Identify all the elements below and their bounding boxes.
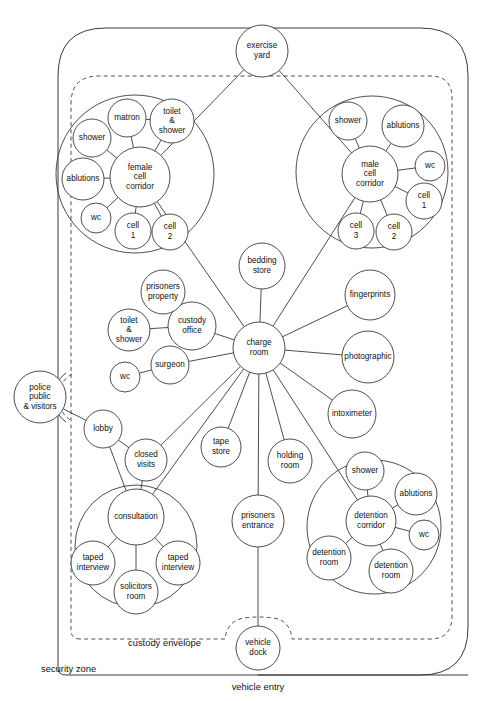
node-toilet-shower[interactable]: toilet&shower bbox=[108, 309, 150, 351]
male-ablutions-label: ablutions bbox=[387, 121, 420, 130]
detention-shower-label: shower bbox=[352, 466, 379, 475]
node-female-cell-corridor[interactable]: femalecellcorridor bbox=[110, 147, 170, 207]
male-cell-corridor-label: cell bbox=[364, 169, 376, 178]
link-charge-room-to-custody-office bbox=[215, 333, 235, 339]
link-consultation-to-taped-interview-2 bbox=[155, 538, 163, 547]
female-cell-2-label: 2 bbox=[168, 232, 173, 241]
custody-office-label: office bbox=[182, 326, 202, 335]
zone-label-vehicle-entry: vehicle entry bbox=[232, 681, 285, 692]
link-charge-room-to-prisoners-entrance bbox=[258, 374, 259, 495]
exercise-yard-label: exercise bbox=[247, 41, 278, 50]
link-detention-corridor-to-detention-wc bbox=[395, 527, 409, 531]
link-female-cell-corridor-to-female-cell-1 bbox=[135, 207, 136, 213]
link-charge-room-to-intoximeter bbox=[280, 363, 332, 400]
police-public-visitors-label: police bbox=[29, 383, 51, 392]
node-taped-interview-1[interactable]: tapedinterview bbox=[71, 541, 115, 585]
detention-wc-label: wc bbox=[418, 530, 429, 539]
female-cell-2-label: cell bbox=[164, 222, 176, 231]
link-police-public-visitors-to-lobby bbox=[63, 409, 86, 421]
node-male-cell-1[interactable]: cell1 bbox=[406, 183, 442, 219]
female-matron-label: matron bbox=[114, 113, 140, 122]
link-lobby-to-consultation bbox=[110, 447, 127, 491]
link-detention-corridor-to-detention-ablutions bbox=[392, 505, 398, 508]
prisoners-property-label: property bbox=[148, 292, 179, 301]
link-surgeon-to-wc-surgeon bbox=[139, 370, 151, 373]
detention-room-1-label: room bbox=[320, 558, 339, 567]
node-female-cell-1[interactable]: cell1 bbox=[115, 213, 151, 249]
police-public-visitors-label: public bbox=[29, 392, 50, 401]
charge-room-label: charge bbox=[246, 338, 271, 347]
node-exercise-yard[interactable]: exerciseyard bbox=[236, 25, 288, 77]
solicitors-room-label: room bbox=[127, 592, 146, 601]
link-lobby-to-closed-visits bbox=[118, 440, 129, 448]
vehicle-dock-label: vehicle bbox=[245, 638, 271, 647]
node-male-cell-corridor[interactable]: malecellcorridor bbox=[342, 146, 398, 202]
node-male-wc[interactable]: wc bbox=[415, 151, 445, 181]
node-fingerprints[interactable]: fingerprints bbox=[345, 270, 395, 320]
node-detention-room-1[interactable]: detentionroom bbox=[307, 536, 351, 580]
intoximeter-label: intoximeter bbox=[332, 409, 372, 418]
node-female-toilet-shower[interactable]: toilet&shower bbox=[150, 99, 194, 143]
fingerprints-label: fingerprints bbox=[350, 290, 391, 299]
node-detention-room-2[interactable]: detentionroom bbox=[369, 549, 413, 593]
node-photographic[interactable]: photographic bbox=[342, 331, 394, 383]
node-bedding-store[interactable]: beddingstore bbox=[239, 243, 285, 289]
female-cell-corridor-label: cell bbox=[134, 172, 146, 181]
node-female-matron[interactable]: matron bbox=[108, 99, 146, 137]
taped-interview-2-label: taped bbox=[168, 553, 189, 562]
node-wc-surgeon[interactable]: wc bbox=[110, 362, 140, 392]
node-male-cell-2[interactable]: cell2 bbox=[376, 214, 412, 250]
node-holding-room[interactable]: holdingroom bbox=[268, 439, 312, 483]
node-female-ablutions[interactable]: ablutions bbox=[62, 158, 104, 200]
bedding-store-label: bedding bbox=[247, 256, 277, 265]
female-toilet-shower-label: shower bbox=[159, 126, 186, 135]
node-charge-room[interactable]: chargeroom bbox=[233, 322, 285, 374]
male-cell-corridor-label: male bbox=[361, 160, 379, 169]
female-cell-corridor-label: corridor bbox=[126, 182, 154, 191]
female-toilet-shower-label: toilet bbox=[163, 107, 181, 116]
male-cell-2-label: 2 bbox=[392, 232, 397, 241]
link-female-cell-corridor-to-female-cell-2 bbox=[154, 203, 161, 216]
detention-corridor-label: corridor bbox=[357, 521, 385, 530]
node-lobby[interactable]: lobby bbox=[84, 410, 122, 448]
node-male-shower[interactable]: shower bbox=[329, 102, 367, 140]
node-female-wc[interactable]: wc bbox=[81, 203, 111, 233]
node-consultation[interactable]: consultation bbox=[108, 489, 164, 545]
node-detention-corridor[interactable]: detentioncorridor bbox=[346, 496, 396, 546]
node-solicitors-room[interactable]: solicitorsroom bbox=[114, 570, 158, 614]
node-taped-interview-2[interactable]: tapedinterview bbox=[156, 541, 200, 585]
node-prisoners-entrance[interactable]: prisonersentrance bbox=[232, 495, 284, 547]
node-detention-wc[interactable]: wc bbox=[409, 520, 439, 550]
node-male-cell-3[interactable]: cell3 bbox=[338, 213, 374, 249]
node-closed-visits[interactable]: closedvisits bbox=[125, 439, 167, 481]
node-detention-shower[interactable]: shower bbox=[346, 452, 384, 490]
node-intoximeter[interactable]: intoximeter bbox=[328, 390, 376, 438]
closed-visits-label: visits bbox=[137, 460, 155, 469]
node-tape-store[interactable]: tapestore bbox=[201, 427, 241, 467]
holding-room-label: holding bbox=[277, 451, 304, 460]
node-detention-ablutions[interactable]: ablutions bbox=[395, 473, 437, 515]
node-police-public-visitors[interactable]: policepublic& visitors bbox=[14, 371, 66, 423]
link-charge-room-to-photographic bbox=[285, 350, 342, 355]
female-wc-label: wc bbox=[90, 213, 101, 222]
tape-store-label: store bbox=[212, 447, 231, 456]
node-male-ablutions[interactable]: ablutions bbox=[382, 105, 424, 147]
male-cell-2-label: cell bbox=[388, 222, 400, 231]
link-female-cell-corridor-to-female-wc bbox=[107, 197, 118, 207]
detention-room-2-label: detention bbox=[374, 561, 408, 570]
link-female-cell-corridor-to-female-shower bbox=[107, 150, 117, 158]
node-surgeon[interactable]: surgeon bbox=[151, 346, 189, 384]
node-female-cell-2[interactable]: cell2 bbox=[152, 214, 188, 250]
node-vehicle-dock[interactable]: vehicledock bbox=[236, 626, 280, 670]
toilet-shower-label: shower bbox=[116, 335, 143, 344]
male-cell-3-label: cell bbox=[350, 221, 362, 230]
female-cell-corridor-label: female bbox=[128, 163, 153, 172]
custody-office-label: custody bbox=[178, 316, 207, 325]
taped-interview-2-label: interview bbox=[162, 563, 194, 572]
link-consultation-to-taped-interview-1 bbox=[108, 537, 117, 546]
male-cell-1-label: 1 bbox=[422, 201, 427, 210]
link-custody-office-to-toilet-shower bbox=[150, 328, 168, 329]
node-prisoners-property[interactable]: prisonersproperty bbox=[141, 270, 185, 314]
node-female-shower[interactable]: shower bbox=[73, 119, 111, 157]
bedding-store-label: store bbox=[253, 266, 272, 275]
